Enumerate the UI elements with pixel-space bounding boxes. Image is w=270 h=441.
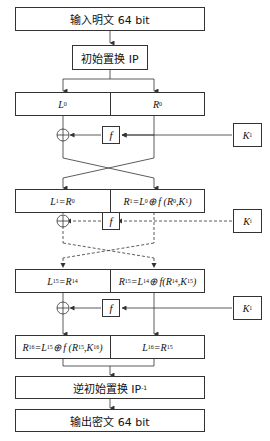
initial-permutation-box: 初始置换 IP xyxy=(72,45,148,70)
f-function-box-i: f xyxy=(102,212,120,230)
key-ki-box: Ki xyxy=(233,209,262,233)
inverse-permutation-label: 逆初始置换 IP xyxy=(73,380,141,396)
output-ciphertext-box: 输出密文 64 bit xyxy=(15,409,205,432)
l15-equation: L15=R14 xyxy=(15,269,110,293)
inverse-permutation-box: 逆初始置换 IP-1 xyxy=(15,376,205,399)
output-ciphertext-label: 输出密文 64 bit xyxy=(70,413,149,429)
r15-equation: R15=L14 ⊕ f(R14,K15) xyxy=(110,269,205,293)
f-function-box-1: f xyxy=(102,126,120,144)
r0-label: R0 xyxy=(110,92,205,116)
input-plaintext-label: 输入明文 64 bit xyxy=(70,11,149,27)
initial-permutation-label: 初始置换 IP xyxy=(81,50,138,66)
key-k16-box: K1 xyxy=(233,296,262,320)
input-plaintext-box: 输入明文 64 bit xyxy=(15,7,205,31)
l1-equation: L1=R0 xyxy=(15,189,110,213)
r1-equation: R1=L0 ⊕ f (R0,K1) xyxy=(110,189,205,213)
r16-equation: R16=L15 ⊕ f (R15,K16) xyxy=(15,335,110,359)
l16-equation: L16=R15 xyxy=(110,335,205,359)
key-k1-box: K1 xyxy=(233,123,262,147)
f-function-box-16: f xyxy=(102,299,120,317)
l0-label: L0 xyxy=(15,92,110,116)
